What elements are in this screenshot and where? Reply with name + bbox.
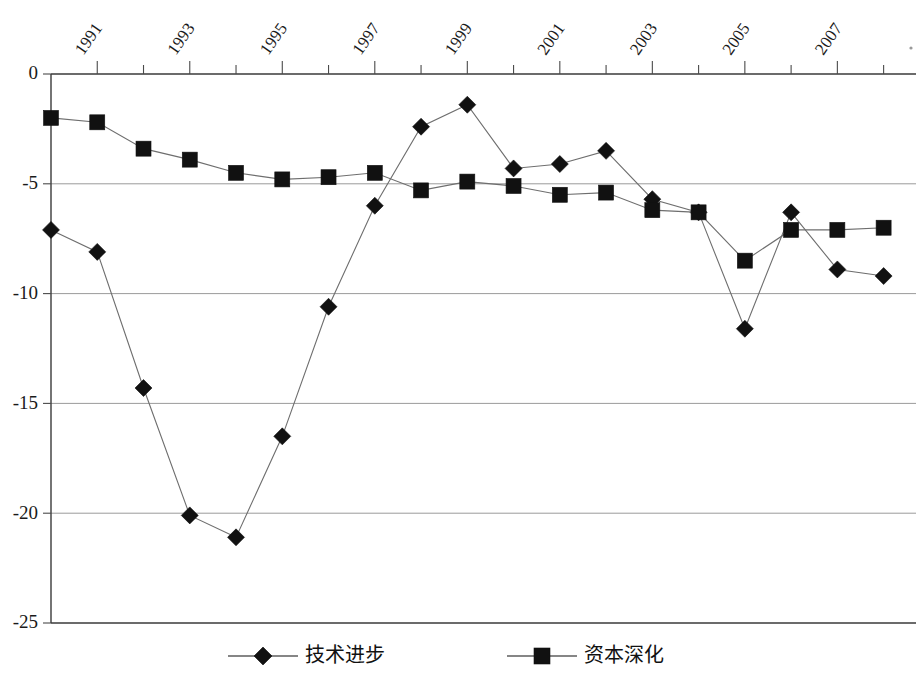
scan-speck [909, 46, 912, 49]
data-point-marker [460, 174, 475, 189]
data-point-marker [736, 320, 753, 337]
axes-group [51, 74, 916, 623]
data-point-marker [506, 178, 521, 193]
x-axis-label: 1999 [441, 20, 476, 59]
data-point-marker [505, 160, 522, 177]
data-point-marker [274, 428, 291, 445]
data-point-marker [136, 141, 151, 156]
series-line [51, 105, 884, 538]
x-axis-label: 1997 [349, 19, 384, 58]
y-axis-label: -20 [13, 502, 38, 523]
x-axis-label: 1991 [71, 20, 106, 59]
diamond-marker-icon [254, 647, 272, 665]
data-point-marker [784, 222, 799, 237]
legend-item-2[interactable]: 资本深化 [507, 644, 664, 666]
x-tick-marks-group [43, 61, 884, 623]
legend-item-1[interactable]: 技术进步 [228, 644, 385, 666]
x-axis-label: 2007 [811, 19, 846, 58]
x-axis-label: 1993 [163, 20, 198, 59]
legend-label: 资本深化 [584, 644, 664, 666]
data-point-marker [551, 156, 568, 173]
y-axis-label: -25 [13, 611, 38, 632]
x-axis-label: 2005 [719, 20, 754, 59]
data-point-marker [829, 261, 846, 278]
chart-container: 0-5-10-15-20-25 199119931995199719992001… [0, 0, 920, 674]
square-marker-icon [534, 648, 550, 664]
data-point-marker [645, 203, 660, 218]
y-axis-label: -10 [13, 282, 38, 303]
data-point-marker [552, 187, 567, 202]
data-point-marker [182, 152, 197, 167]
chart-legend: 技术进步资本深化 [228, 644, 664, 666]
x-axis-tick-labels: 199119931995199719992001200320052007 [71, 19, 846, 58]
data-point-marker [876, 220, 891, 235]
data-point-marker [321, 170, 336, 185]
data-point-marker [367, 165, 382, 180]
data-point-marker [228, 529, 245, 546]
data-point-marker [366, 197, 383, 214]
legend-label: 技术进步 [305, 644, 385, 666]
data-point-marker [44, 110, 59, 125]
data-point-marker [43, 221, 60, 238]
y-axis-label: -5 [22, 172, 38, 193]
data-point-marker [135, 380, 152, 397]
data-point-marker [414, 183, 429, 198]
series-2 [44, 110, 892, 268]
x-axis-label: 2003 [626, 20, 661, 59]
data-point-marker [599, 185, 614, 200]
line-chart: 0-5-10-15-20-25 199119931995199719992001… [0, 0, 920, 674]
data-point-marker [275, 172, 290, 187]
data-point-marker [783, 204, 800, 221]
data-point-marker [181, 507, 198, 524]
y-axis-tick-labels: 0-5-10-15-20-25 [13, 62, 38, 632]
data-series-layer [43, 96, 893, 546]
data-point-marker [737, 253, 752, 268]
data-point-marker [90, 115, 105, 130]
y-axis-label: 0 [29, 62, 39, 83]
data-point-marker [229, 165, 244, 180]
x-axis-label: 2001 [534, 20, 569, 59]
data-point-marker [875, 268, 892, 285]
data-point-marker [413, 118, 430, 135]
data-point-marker [691, 205, 706, 220]
data-point-marker [459, 96, 476, 113]
series-1 [43, 96, 893, 546]
y-axis-label: -15 [13, 392, 38, 413]
x-axis-label: 1995 [256, 20, 291, 59]
data-point-marker [320, 298, 337, 315]
data-point-marker [89, 243, 106, 260]
data-point-marker [830, 222, 845, 237]
